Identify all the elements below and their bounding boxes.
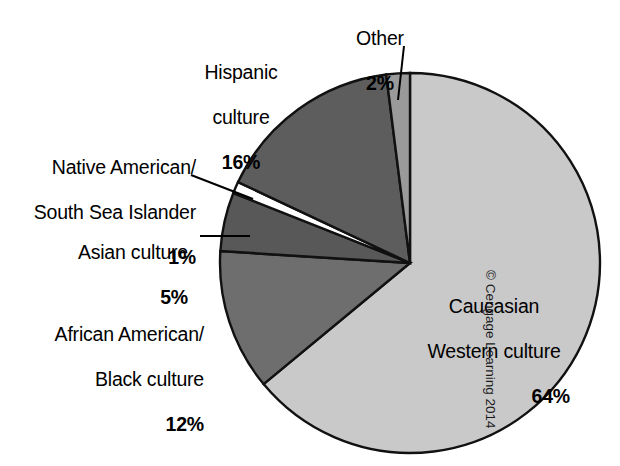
slice-label-other-percent: 2% [320, 72, 440, 95]
slice-label-hispanic-line2: culture [176, 106, 306, 129]
pie-chart-figure: harmony identity inner balance cultural … [0, 0, 620, 466]
slice-label-african-american-line2: Black culture [0, 368, 204, 391]
slice-label-other-text: Other [320, 27, 440, 50]
slice-label-african-american-percent: 12% [0, 413, 204, 436]
slice-label-african-american-line1: African American/ [0, 323, 204, 346]
slice-label-hispanic-line1: Hispanic [176, 61, 306, 84]
copyright-credit: © Cengage Learning 2014 [483, 270, 498, 450]
slice-label-native-american-line1: Native American/ [0, 156, 196, 179]
slice-label-asian-text: Asian culture [0, 241, 188, 264]
slice-label-other: Other 2% [320, 4, 440, 117]
slice-label-african-american: African American/ Black culture 12% [0, 300, 204, 458]
